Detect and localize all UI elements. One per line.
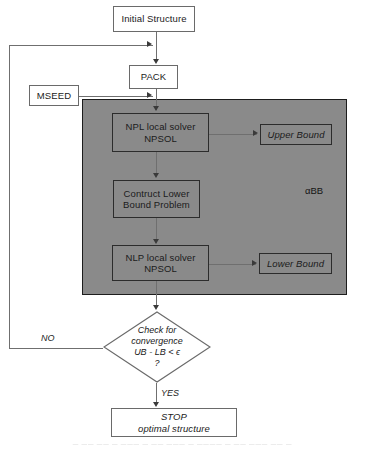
edge-label-yes: YES	[161, 388, 179, 398]
text-line: NPSOL	[126, 133, 196, 144]
connector-npl-to-construct	[156, 152, 157, 175]
construct-lower-bound-problem-box-label: Contruct LowerBound Problem	[123, 188, 190, 210]
text-line: optimal structure	[138, 423, 210, 434]
pack-box: PACK	[129, 65, 178, 89]
arrowhead-into-npl	[153, 106, 159, 111]
construct-lower-bound-problem-box: Contruct LowerBound Problem	[113, 180, 200, 218]
text-line: NLP local solver	[125, 252, 195, 263]
stop-box-label: STOPoptimal structure	[138, 411, 210, 433]
npl-local-solver-box-label: NPL local solverNPSOL	[126, 121, 196, 143]
connector-initial-to-pack	[156, 32, 157, 59]
upper-bound-box-label: Upper Bound	[267, 129, 324, 140]
connector-nlp-to-lower	[209, 264, 256, 265]
alpha-bb-label: αBB	[305, 185, 323, 196]
text-line: NPSOL	[125, 263, 195, 274]
scan-artifact-caption: — —— —— — ——— — —— ——— — ———— — —— ——— —…	[0, 441, 365, 447]
text-line: Lower Bound	[267, 258, 324, 269]
connector-loop-top	[9, 45, 153, 46]
arrowhead-into-nlp	[153, 239, 159, 244]
upper-bound-box: Upper Bound	[260, 124, 332, 145]
nlp-local-solver-box-label: NLP local solverNPSOL	[125, 252, 195, 274]
text-line: STOP	[138, 411, 210, 422]
connector-npl-to-upper	[209, 134, 257, 135]
arrowhead-into-stop	[153, 402, 159, 407]
text-line: Bound Problem	[123, 199, 190, 210]
arrowhead-into-pack-loop	[147, 41, 152, 47]
connector-yes-to-stop	[156, 383, 157, 404]
connector-no-branch	[9, 348, 103, 349]
text-line: Contruct Lower	[123, 188, 190, 199]
text-line: Upper Bound	[267, 129, 324, 140]
text-line: MSEED	[37, 90, 71, 101]
connector-loop-riser	[9, 45, 10, 349]
mseed-box-label: MSEED	[37, 90, 71, 101]
arrowhead-into-lower-bound	[252, 260, 257, 266]
connector-mseed-out	[79, 96, 153, 97]
diamond-shape-icon	[103, 311, 211, 383]
connector-nlp-to-decision	[156, 281, 157, 307]
arrowhead-mseed-into-npl	[147, 92, 152, 98]
arrowhead-into-construct	[153, 173, 159, 178]
flowchart-canvas: αBB Initial StructurePACKMSEEDNPL local …	[0, 0, 365, 450]
npl-local-solver-box: NPL local solverNPSOL	[112, 113, 209, 152]
text-line: NPL local solver	[126, 121, 196, 132]
initial-structure-box-label: Initial Structure	[121, 13, 186, 24]
edge-label-no: NO	[41, 333, 55, 343]
text-line: Initial Structure	[121, 13, 186, 24]
arrowhead-into-upper-bound	[253, 130, 258, 136]
arrowhead-into-pack	[153, 59, 159, 64]
mseed-box: MSEED	[29, 85, 79, 106]
arrowhead-into-decision	[153, 305, 159, 310]
stop-box: STOPoptimal structure	[111, 408, 237, 437]
pack-box-label: PACK	[141, 71, 167, 82]
initial-structure-box: Initial Structure	[113, 6, 195, 32]
convergence-decision-diamond: Check forconvergenceUB - LB < ϵ?	[103, 311, 211, 383]
lower-bound-box-label: Lower Bound	[267, 258, 324, 269]
lower-bound-box: Lower Bound	[259, 253, 332, 274]
connector-construct-to-nlp	[156, 218, 157, 240]
text-line: PACK	[141, 71, 167, 82]
nlp-local-solver-box: NLP local solverNPSOL	[112, 245, 209, 281]
